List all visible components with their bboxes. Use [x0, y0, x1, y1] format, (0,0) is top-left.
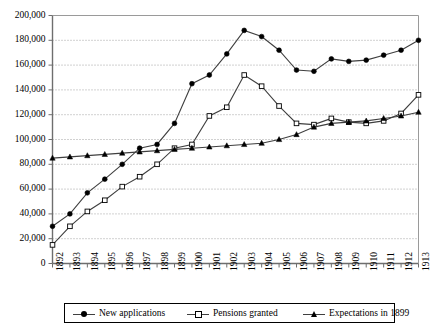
marker-point — [364, 58, 369, 63]
marker-point — [259, 34, 264, 39]
x-axis-tick-label: 1910 — [370, 252, 380, 271]
marker-point — [224, 52, 229, 57]
y-axis-tick-label: 120,000 — [0, 110, 46, 120]
x-axis-tick-label: 1913 — [422, 252, 432, 271]
marker-point — [416, 93, 421, 98]
legend-entry-0: New applications — [73, 307, 165, 321]
y-axis-tick-label: 140,000 — [0, 85, 46, 95]
filled-circle-marker-icon — [73, 309, 95, 319]
x-axis-tick-label: 1908 — [335, 252, 345, 271]
y-axis-tick-label: 200,000 — [0, 11, 46, 21]
legend-label: New applications — [99, 309, 165, 319]
marker-point — [294, 121, 299, 126]
y-axis-tick-label: 60,000 — [0, 184, 46, 194]
y-axis-tick-label: 80,000 — [0, 159, 46, 169]
marker-point — [172, 121, 177, 126]
x-axis-tick-label: 1899 — [178, 252, 188, 271]
series-line-1 — [53, 75, 419, 245]
x-axis-tick-label: 1892 — [56, 252, 66, 271]
x-axis-tick-label: 1903 — [248, 252, 258, 271]
y-axis-tick-label: 20,000 — [0, 234, 46, 244]
marker-point — [137, 174, 142, 179]
axis-ticks — [49, 16, 419, 268]
x-axis-tick-label: 1897 — [143, 252, 153, 271]
legend-entry-2: Expectations in 1899 — [303, 307, 409, 321]
marker-point — [190, 81, 195, 86]
x-axis-tick-label: 1893 — [73, 252, 83, 271]
legend-entry-1: Pensions granted — [187, 307, 278, 321]
x-axis-tick-label: 1895 — [108, 252, 118, 271]
y-axis-tick-label: 160,000 — [0, 60, 46, 70]
y-axis-tick-label: 0 — [0, 259, 46, 269]
marker-point — [242, 28, 247, 33]
marker-point — [224, 105, 229, 110]
marker-point — [294, 68, 299, 73]
gridlines — [53, 16, 419, 239]
marker-point — [346, 59, 351, 64]
marker-point — [102, 198, 107, 203]
x-axis-tick-label: 1901 — [213, 252, 223, 271]
filled-triangle-marker-icon — [303, 309, 325, 319]
x-axis-tick-label: 1894 — [91, 252, 101, 271]
marker-point — [85, 190, 90, 195]
x-axis-tick-label: 1909 — [352, 252, 362, 271]
y-axis-tick-label: 180,000 — [0, 35, 46, 45]
marker-point — [85, 209, 90, 214]
x-axis-tick-label: 1902 — [230, 252, 240, 271]
x-axis-tick-label: 1905 — [283, 252, 293, 271]
marker-point — [277, 48, 282, 53]
marker-point — [312, 69, 317, 74]
marker-point — [207, 114, 212, 119]
marker-point — [416, 109, 421, 114]
x-axis-tick-label: 1906 — [300, 252, 310, 271]
x-axis-tick-label: 1907 — [317, 252, 327, 271]
legend-label: Pensions granted — [213, 309, 278, 319]
x-axis-tick-label: 1898 — [161, 252, 171, 271]
marker-point — [399, 48, 404, 53]
y-axis-tick-label: 40,000 — [0, 209, 46, 219]
x-axis-tick-label: 1904 — [265, 252, 275, 271]
marker-point — [155, 142, 160, 147]
chart-legend: New applicationsPensions grantedExpectat… — [64, 303, 395, 323]
marker-point — [120, 184, 125, 189]
data-series — [50, 28, 421, 247]
marker-point — [259, 84, 264, 89]
series-line-2 — [53, 112, 419, 158]
marker-point — [277, 104, 282, 109]
x-axis-tick-label: 1896 — [126, 252, 136, 271]
marker-point — [207, 73, 212, 78]
x-axis-tick-label: 1912 — [405, 252, 415, 271]
marker-point — [68, 224, 73, 229]
y-axis-tick-label: 100,000 — [0, 135, 46, 145]
open-square-marker-icon — [187, 309, 209, 319]
marker-point — [50, 243, 55, 248]
marker-point — [50, 224, 55, 229]
marker-point — [242, 73, 247, 78]
marker-point — [120, 162, 125, 167]
marker-point — [416, 38, 421, 43]
x-axis-tick-label: 1900 — [195, 252, 205, 271]
marker-point — [102, 177, 107, 182]
marker-point — [329, 57, 334, 62]
x-axis-tick-label: 1911 — [387, 252, 397, 271]
legend-label: Expectations in 1899 — [329, 309, 409, 319]
marker-point — [68, 212, 73, 217]
marker-point — [381, 53, 386, 58]
marker-point — [155, 162, 160, 167]
